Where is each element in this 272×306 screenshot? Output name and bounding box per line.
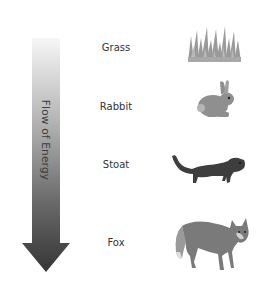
grass-label: Grass xyxy=(86,42,146,53)
fox-label: Fox xyxy=(86,237,146,248)
stoat-icon xyxy=(168,152,250,188)
stoat-label: Stoat xyxy=(86,159,146,170)
grass-icon xyxy=(188,24,242,64)
rabbit-label: Rabbit xyxy=(86,101,146,112)
fox-icon xyxy=(168,212,254,276)
flow-of-energy-label: Flow of Energy xyxy=(40,100,52,180)
rabbit-icon xyxy=(193,78,241,122)
